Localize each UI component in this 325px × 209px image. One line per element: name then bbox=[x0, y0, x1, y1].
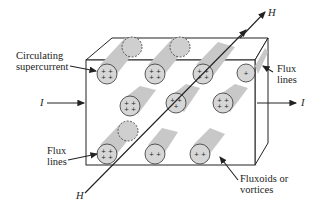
label-line: Flux bbox=[277, 63, 297, 74]
label-current-in: I bbox=[40, 97, 44, 108]
svg-text:+ +: + + bbox=[101, 153, 113, 160]
label-line: lines bbox=[277, 74, 297, 85]
label-field-bottom: H bbox=[76, 190, 84, 201]
svg-text:+: + bbox=[243, 69, 248, 76]
svg-text:+ +: + + bbox=[194, 150, 206, 157]
label-line: Circulating bbox=[16, 50, 68, 61]
label-line: vortices bbox=[240, 184, 288, 195]
svg-text:+ +: + + bbox=[149, 73, 161, 80]
label-circulating-supercurrent: Circulating supercurrent bbox=[16, 50, 68, 72]
svg-text:+ +: + + bbox=[124, 105, 136, 112]
label-current-out: I bbox=[301, 97, 305, 108]
label-field-top: H bbox=[268, 7, 276, 18]
label-line: lines bbox=[47, 156, 67, 167]
label-line: supercurrent bbox=[16, 61, 68, 72]
field-arrow-top bbox=[240, 12, 265, 38]
label-fluxoids: Fluxoids or vortices bbox=[240, 173, 288, 195]
svg-text:+ +: + + bbox=[149, 150, 161, 157]
label-flux-lines-left: Flux lines bbox=[47, 145, 67, 167]
label-flux-lines-right: Flux lines bbox=[277, 63, 297, 85]
label-line: Flux bbox=[47, 145, 67, 156]
svg-text:+ +: + + bbox=[101, 73, 113, 80]
svg-text:+ +: + + bbox=[217, 102, 229, 109]
label-line: Fluxoids or bbox=[240, 173, 288, 184]
